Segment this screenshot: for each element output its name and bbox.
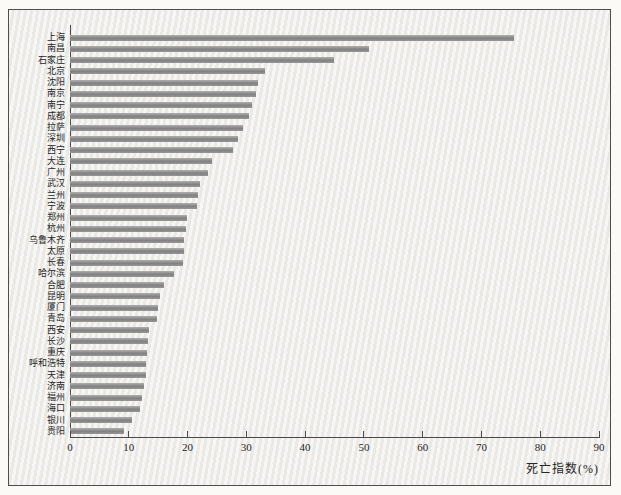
bar-track [70,291,598,302]
bar [70,170,208,176]
bar-track [70,100,598,111]
chart-row: 海口 [12,403,598,414]
category-label: 南宁 [12,101,70,110]
bar [70,350,147,356]
chart-row: 太原 [12,246,598,257]
tick-label: 90 [594,441,605,454]
chart-row: 昆明 [12,291,598,302]
category-label: 长沙 [12,337,70,346]
category-label: 银川 [12,416,70,425]
bar [70,102,252,108]
bar [70,260,183,266]
screenshot-canvas: { "chart_data": { "type": "bar", "orient… [0,0,621,495]
bar [70,181,200,187]
chart-row: 西宁 [12,145,598,156]
bar [70,417,132,423]
category-label: 南昌 [12,44,70,53]
bar [70,271,174,277]
chart-row: 兰州 [12,190,598,201]
tick-mark [540,431,541,438]
bar-track [70,167,598,178]
category-label: 西宁 [12,146,70,155]
bar [70,361,146,367]
bar-track [70,77,598,88]
tick-label: 60 [417,441,428,454]
tick-mark [481,431,482,438]
category-label: 厦门 [12,303,70,312]
category-label: 石家庄 [12,56,70,65]
bar [70,57,334,63]
bar-track [70,212,598,223]
bar [70,293,160,299]
bar [70,395,142,401]
category-label: 济南 [12,382,70,391]
bar-chart: 上海南昌石家庄北京沈阳南京南宁成都拉萨深圳西宁大连广州武汉兰州宁波郑州杭州乌鲁木… [0,0,621,495]
chart-row: 大连 [12,156,598,167]
chart-row: 厦门 [12,302,598,313]
chart-row: 长春 [12,257,598,268]
category-label: 上海 [12,33,70,42]
bar [70,80,258,86]
category-label: 南京 [12,89,70,98]
chart-row: 福州 [12,392,598,403]
bar [70,237,184,243]
category-label: 成都 [12,112,70,121]
chart-row: 西安 [12,325,598,336]
bar-track [70,55,598,66]
tick-mark [128,431,129,438]
chart-row: 上海 [12,32,598,43]
chart-row: 沈阳 [12,77,598,88]
tick-mark [70,431,71,438]
chart-rows: 上海南昌石家庄北京沈阳南京南宁成都拉萨深圳西宁大连广州武汉兰州宁波郑州杭州乌鲁木… [12,32,598,437]
tick-label: 30 [241,441,252,454]
chart-row: 北京 [12,66,598,77]
tick-mark [599,431,600,438]
bar [70,192,198,198]
chart-row: 重庆 [12,347,598,358]
bar [70,158,212,164]
chart-row: 合肥 [12,280,598,291]
chart-row: 长沙 [12,336,598,347]
bar [70,226,186,232]
category-label: 太原 [12,247,70,256]
category-label: 合肥 [12,281,70,290]
chart-row: 成都 [12,111,598,122]
bar [70,316,157,322]
tick-mark [187,431,188,438]
bar-track [70,178,598,189]
bar [70,338,148,344]
tick-mark [363,431,364,438]
bar [70,113,249,119]
bar-track [70,358,598,369]
bar [70,91,256,97]
bar [70,383,144,389]
category-label: 西安 [12,326,70,335]
x-axis-ticks: 0102030405060708090 [70,431,599,457]
chart-row: 天津 [12,370,598,381]
bar-track [70,32,598,43]
bar-track [70,156,598,167]
bar-track [70,403,598,414]
category-label: 青岛 [12,314,70,323]
bar [70,282,164,288]
tick-label: 40 [300,441,311,454]
bar-track [70,313,598,324]
bar-track [70,381,598,392]
bar-track [70,201,598,212]
bar-track [70,370,598,381]
chart-row: 拉萨 [12,122,598,133]
tick-label: 10 [123,441,134,454]
bar-track [70,336,598,347]
category-label: 海口 [12,404,70,413]
bar-track [70,246,598,257]
bar-track [70,43,598,54]
bar [70,35,514,41]
bar-track [70,66,598,77]
category-label: 福州 [12,393,70,402]
chart-row: 济南 [12,381,598,392]
bar [70,46,369,52]
bar-track [70,280,598,291]
tick-label: 70 [476,441,487,454]
bar [70,125,243,131]
chart-row: 广州 [12,167,598,178]
